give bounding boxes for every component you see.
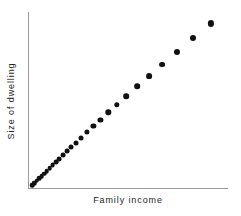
x-axis-title: Family income <box>28 195 228 205</box>
data-point <box>64 149 69 154</box>
data-point <box>146 73 152 79</box>
y-axis-title: Size of dwelling <box>6 62 16 139</box>
data-point <box>98 117 103 122</box>
plot-area <box>28 12 228 188</box>
data-point <box>91 124 96 129</box>
data-point <box>174 49 180 55</box>
data-point <box>134 84 140 90</box>
data-point <box>79 135 84 140</box>
x-axis-line <box>28 188 228 189</box>
data-point <box>190 35 196 41</box>
data-point <box>124 93 130 99</box>
data-point <box>74 140 79 145</box>
data-point <box>105 110 110 115</box>
y-axis-title-container: Size of dwelling <box>0 12 22 189</box>
data-point <box>84 130 89 135</box>
data-point <box>114 102 119 107</box>
data-point <box>69 145 74 150</box>
data-point <box>159 62 165 68</box>
scatter-plot-figure: Size of dwelling Family income <box>0 0 241 216</box>
data-point <box>208 20 214 26</box>
